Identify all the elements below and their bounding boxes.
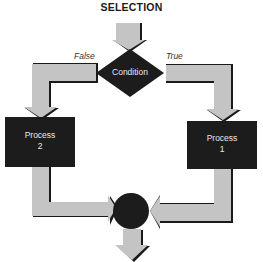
process-2-line1: Process [5,130,75,141]
false-label: False [74,51,95,61]
false-branch-arrow [24,63,98,120]
process-2-line2: 2 [5,141,75,152]
merge-connector [113,193,149,229]
process-2-return-arrow [32,167,118,225]
entry-arrow [112,23,147,52]
true-branch-arrow [166,64,241,122]
process-2-label: Process 2 [5,130,75,152]
exit-arrow [115,229,150,262]
process-1-label: Process 1 [187,133,257,155]
process-1-return-arrow [150,169,233,229]
process-1-line1: Process [187,133,257,144]
true-label: True [166,51,183,61]
condition-label: Condition [100,67,160,78]
process-1-line2: 1 [187,144,257,155]
